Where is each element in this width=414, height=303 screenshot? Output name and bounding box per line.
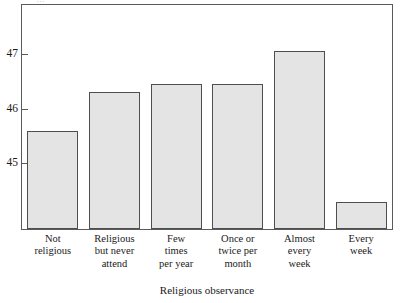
- x-axis-category-label-line: Every: [330, 233, 392, 245]
- x-axis-category-label-line: Religious: [84, 233, 146, 245]
- x-axis-category-label-line: per year: [145, 258, 207, 270]
- x-axis-category-label-line: week: [330, 245, 392, 257]
- x-axis-category-label-line: times: [145, 245, 207, 257]
- x-axis-category-labels: NotreligiousReligiousbut neverattendFewt…: [22, 233, 392, 281]
- x-axis-category-label-line: week: [269, 258, 331, 270]
- bar: [89, 92, 140, 229]
- x-axis-category-label: Everyweek: [330, 233, 392, 258]
- bar-chart: … 454647 NotreligiousReligiousbut nevera…: [0, 0, 414, 303]
- x-axis-title: Religious observance: [0, 284, 414, 297]
- bars-layer: [22, 5, 392, 229]
- bar: [27, 131, 78, 229]
- x-axis-category-label: Notreligious: [22, 233, 84, 258]
- x-axis-category-label-line: Few: [145, 233, 207, 245]
- x-axis-category-label-line: Once or: [207, 233, 269, 245]
- y-axis-tick-label: 46: [0, 103, 18, 115]
- bar: [151, 84, 202, 229]
- bar: [336, 202, 387, 229]
- x-axis-category-label-line: every: [269, 245, 331, 257]
- x-axis-category-label-line: Not: [22, 233, 84, 245]
- x-axis-category-label-line: Almost: [269, 233, 331, 245]
- x-axis-category-label-line: attend: [84, 258, 146, 270]
- x-axis-category-label: Fewtimesper year: [145, 233, 207, 270]
- x-axis-category-label: Almosteveryweek: [269, 233, 331, 270]
- x-axis-category-label: Once ortwice permonth: [207, 233, 269, 270]
- bar: [274, 51, 325, 229]
- bar: [212, 84, 263, 229]
- x-axis-category-label-line: religious: [22, 245, 84, 257]
- x-axis-category-label-line: month: [207, 258, 269, 270]
- y-axis-tick-label: 47: [0, 48, 18, 60]
- x-axis-category-label-line: but never: [84, 245, 146, 257]
- x-axis-category-label: Religiousbut neverattend: [84, 233, 146, 270]
- x-axis-category-label-line: twice per: [207, 245, 269, 257]
- y-axis-tick-label: 45: [0, 157, 18, 169]
